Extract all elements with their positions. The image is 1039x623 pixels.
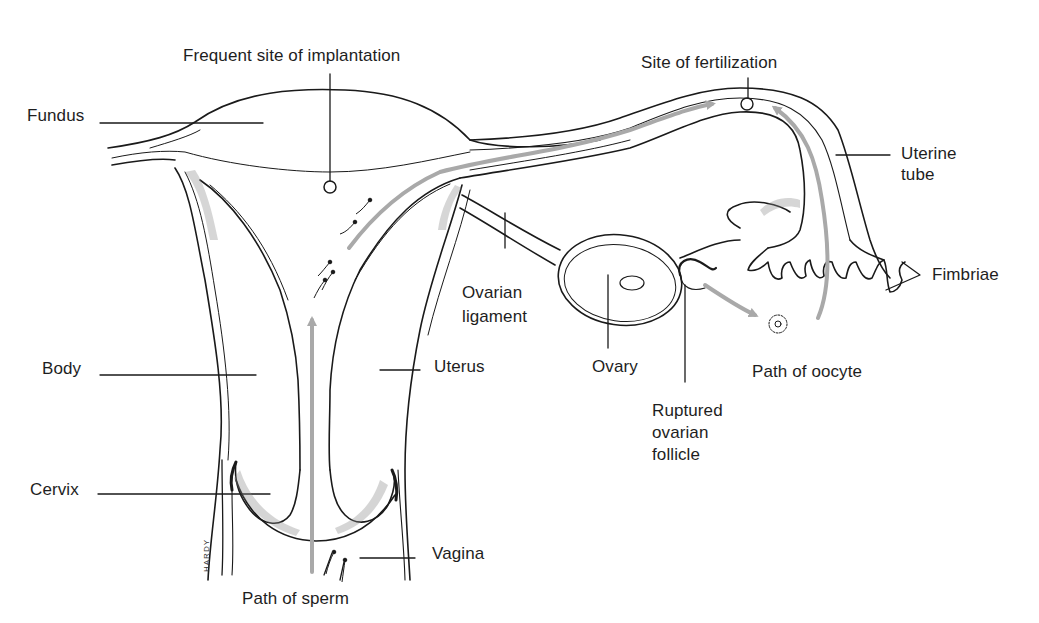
artist-signature: HARDY	[202, 539, 211, 572]
label-path-of-oocyte: Path of oocyte	[752, 361, 862, 382]
label-ovarian-ligament-line2: ligament	[462, 306, 527, 327]
label-ruptured-follicle-line1: Ruptured	[652, 400, 723, 421]
label-uterine-tube-line1: Uterine	[901, 143, 957, 164]
label-cervix: Cervix	[30, 479, 79, 500]
sperm-cells	[314, 198, 372, 582]
label-path-of-sperm: Path of sperm	[242, 588, 349, 609]
label-ruptured-follicle-line2: ovarian	[652, 422, 708, 443]
label-fertilization-site: Site of fertilization	[641, 52, 777, 73]
label-vagina: Vagina	[432, 543, 484, 564]
ovary	[552, 227, 687, 333]
label-uterus: Uterus	[434, 356, 485, 377]
label-uterine-tube-line2: tube	[901, 164, 935, 185]
label-implantation-site: Frequent site of implantation	[183, 45, 400, 66]
label-fundus: Fundus	[27, 105, 84, 126]
sperm-path-arrow-mid	[349, 104, 712, 248]
label-fimbriae: Fimbriae	[932, 264, 999, 285]
leader-sperm-1	[324, 553, 332, 575]
label-ruptured-follicle-line3: follicle	[652, 444, 700, 465]
anatomy-diagram: Frequent site of implantation Site of fe…	[0, 0, 1039, 623]
oocyte	[769, 315, 787, 333]
fimbriae-bracket	[886, 262, 920, 290]
ruptured-follicle	[679, 259, 716, 275]
label-body: Body	[42, 358, 81, 379]
ovarian-ligament	[462, 195, 560, 250]
uterus-right-wall	[405, 185, 462, 580]
label-ovary: Ovary	[592, 356, 638, 377]
implantation-site	[324, 181, 336, 193]
oocyte-path-arrow-tube	[775, 108, 828, 318]
oocyte-path-arrow-ovary	[705, 285, 755, 315]
fertilization-site	[741, 98, 753, 110]
fundus-outline	[108, 89, 600, 148]
label-ovarian-ligament-line1: Ovarian	[462, 282, 522, 303]
